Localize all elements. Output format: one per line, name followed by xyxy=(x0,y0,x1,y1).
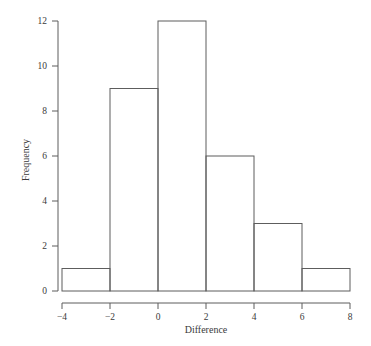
histogram-bar xyxy=(254,224,302,292)
x-axis-tick-label: 8 xyxy=(348,312,353,322)
y-axis-tick-label: 10 xyxy=(38,61,48,71)
histogram-bar xyxy=(302,269,350,292)
histogram-bar xyxy=(158,21,206,291)
x-axis-tick-label: 6 xyxy=(300,312,305,322)
histogram-figure: 024681012 −4−202468 Difference Frequency xyxy=(0,0,371,346)
y-axis-tick-label: 0 xyxy=(42,286,47,296)
y-axis-tick-label: 12 xyxy=(38,16,48,26)
histogram-bar xyxy=(62,269,110,292)
y-axis-tick-label: 4 xyxy=(42,196,47,206)
histogram-svg: 024681012 −4−202468 Difference Frequency xyxy=(0,0,371,346)
y-axis-tick-label: 8 xyxy=(42,106,47,116)
plot-area: 024681012 −4−202468 Difference Frequency xyxy=(0,0,371,346)
x-axis-tick-label: −2 xyxy=(105,312,115,322)
x-axis-tick-label: −4 xyxy=(57,312,67,322)
x-axis-tick-label: 2 xyxy=(204,312,209,322)
x-axis-title: Difference xyxy=(185,324,228,335)
x-axis: −4−202468 xyxy=(57,303,353,322)
histogram-bar xyxy=(110,89,158,292)
x-axis-tick-label: 0 xyxy=(156,312,161,322)
bars-group xyxy=(62,21,350,291)
y-axis-tick-label: 6 xyxy=(42,151,47,161)
y-axis-title: Frequency xyxy=(20,139,31,181)
y-axis: 024681012 xyxy=(38,16,59,296)
x-axis-tick-label: 4 xyxy=(252,312,257,322)
histogram-bar xyxy=(206,156,254,291)
y-axis-tick-label: 2 xyxy=(42,241,47,251)
